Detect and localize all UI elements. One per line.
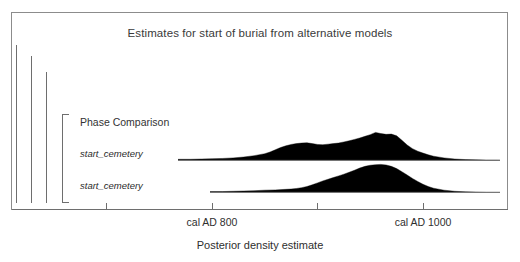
distribution-curve-2	[210, 156, 500, 194]
model-bracket-middle	[31, 56, 32, 203]
x-tick-4	[423, 203, 424, 210]
chart-title: Estimates for start of burial from alter…	[0, 27, 520, 39]
x-axis-line	[12, 209, 508, 210]
distribution-row-2	[210, 156, 500, 196]
x-tick-label-800: cal AD 800	[187, 216, 238, 228]
model-bracket-outer	[16, 45, 17, 203]
x-tick-2	[212, 203, 213, 210]
phase-comparison-label: Phase Comparison	[80, 116, 169, 128]
series-label-2: start_cemetery	[80, 180, 143, 191]
phase-comparison-bracket	[62, 114, 69, 203]
x-tick-3	[317, 203, 318, 210]
model-bracket-inner	[46, 72, 47, 203]
chart-screenshot: Estimates for start of burial from alter…	[0, 0, 520, 262]
x-axis-title: Posterior density estimate	[0, 239, 520, 251]
series-label-1: start_cemetery	[80, 148, 143, 159]
x-tick-label-1000: cal AD 1000	[395, 216, 452, 228]
x-tick-1	[106, 203, 107, 210]
